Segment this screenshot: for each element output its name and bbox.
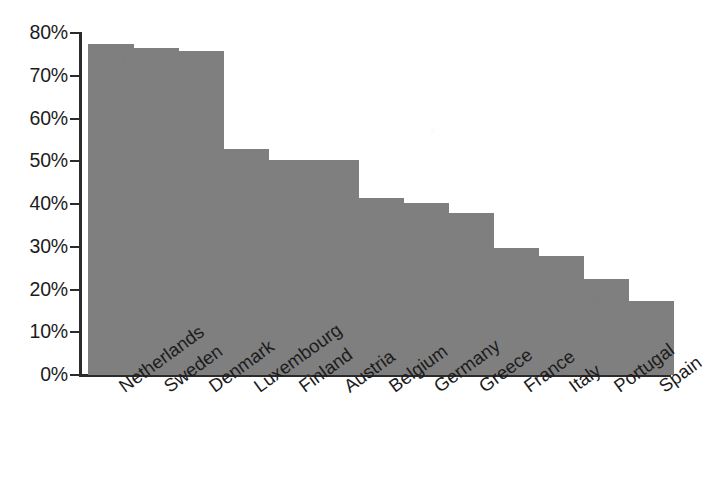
y-axis-tick xyxy=(70,75,80,77)
y-axis-tick xyxy=(70,118,80,120)
y-axis-tick-label: 40% xyxy=(6,194,68,214)
plot-area xyxy=(81,33,670,375)
bar xyxy=(88,44,134,375)
y-axis-tick-label: 0% xyxy=(6,365,68,385)
y-axis-tick-label: 70% xyxy=(6,66,68,86)
y-axis-tick xyxy=(70,203,80,205)
y-axis-tick xyxy=(70,331,80,333)
y-axis-tick-label: 60% xyxy=(6,109,68,129)
y-axis-tick-label: 80% xyxy=(6,23,68,43)
bar xyxy=(178,51,224,375)
y-axis-tick-label: 20% xyxy=(6,280,68,300)
y-axis-tick-label: 10% xyxy=(6,322,68,342)
y-axis-tick xyxy=(70,374,80,376)
bar xyxy=(133,48,179,375)
y-axis-tick xyxy=(70,246,80,248)
y-axis-tick-label: 30% xyxy=(6,237,68,257)
y-axis-tick-label: 50% xyxy=(6,151,68,171)
y-axis-tick xyxy=(70,160,80,162)
y-axis-tick xyxy=(70,289,80,291)
y-axis-tick xyxy=(70,32,80,34)
